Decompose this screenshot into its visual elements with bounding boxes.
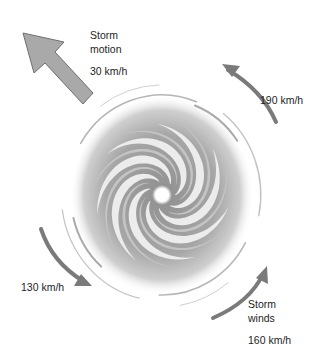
storm-winds-label-line1: Storm — [248, 297, 276, 311]
storm-motion-speed: 30 km/h — [90, 64, 127, 78]
wind-speed-top-right: 190 km/h — [260, 93, 303, 107]
cyclone-eye — [152, 185, 172, 205]
storm-motion-arrow-icon — [23, 33, 93, 104]
storm-winds-speed: 160 km/h — [248, 333, 291, 347]
wind-speed-bottom-left: 130 km/h — [21, 280, 64, 294]
storm-winds-label-line2: winds — [248, 311, 275, 325]
storm-motion-label-line2: motion — [90, 42, 122, 56]
storm-motion-label-line1: Storm — [90, 28, 118, 42]
